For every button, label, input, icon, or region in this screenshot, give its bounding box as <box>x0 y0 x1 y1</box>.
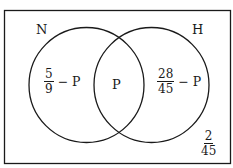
region-outside: 2 45 <box>201 130 216 157</box>
region-suffix: − P <box>58 74 81 89</box>
numerator: 2 <box>204 130 214 144</box>
region-n-only: 5 9 − P <box>44 68 81 95</box>
denominator: 9 <box>45 82 53 95</box>
region-intersection: P <box>112 78 121 91</box>
denominator: 45 <box>158 82 173 95</box>
numerator: 28 <box>157 68 174 82</box>
fraction: 2 45 <box>201 130 216 157</box>
set-label-h: H <box>192 23 203 36</box>
region-h-only: 28 45 − P <box>157 68 201 95</box>
fraction: 28 45 <box>157 68 174 95</box>
set-label-n: N <box>36 23 47 36</box>
denominator: 45 <box>201 144 216 157</box>
region-suffix: − P <box>178 74 201 89</box>
numerator: 5 <box>44 68 54 82</box>
fraction: 5 9 <box>44 68 54 95</box>
